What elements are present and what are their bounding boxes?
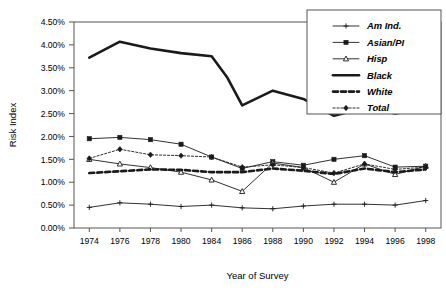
chart-container: 0.00%0.50%1.00%1.50%2.00%2.50%3.00%3.50%… [0, 0, 446, 292]
y-axis-tick-label: 2.50% [41, 109, 66, 119]
x-axis-title: Year of Survey [227, 270, 289, 281]
data-point-marker [179, 142, 183, 146]
y-axis-tick-label: 1.50% [41, 155, 66, 165]
data-point-marker [148, 152, 153, 157]
x-axis-tick-label: 1984 [202, 236, 221, 246]
data-point-marker [87, 137, 91, 141]
y-axis-tick-label: 4.00% [41, 40, 66, 50]
data-point-marker [344, 40, 348, 44]
y-axis-tick-label: 0.50% [41, 200, 66, 210]
x-axis-tick-label: 1976 [110, 236, 129, 246]
y-axis-tick-label: 4.50% [41, 17, 66, 27]
x-axis-tick-label: 1974 [80, 236, 99, 246]
data-point-marker [178, 204, 183, 209]
x-axis-tick-label: 1990 [294, 236, 313, 246]
data-point-marker [240, 205, 245, 210]
y-axis-tick-label: 3.50% [41, 63, 66, 73]
x-axis-tick-label: 1994 [355, 236, 374, 246]
data-point-marker [117, 147, 122, 152]
data-point-marker [179, 153, 184, 158]
x-axis-tick-label: 1986 [233, 236, 252, 246]
series-asian-pi [87, 135, 428, 170]
data-point-marker [423, 198, 428, 203]
y-axis-tick-label: 0.00% [41, 223, 66, 233]
legend-label: Hisp [367, 53, 388, 64]
data-point-marker [301, 203, 306, 208]
data-point-marker [87, 205, 92, 210]
line-chart: 0.00%0.50%1.00%1.50%2.00%2.50%3.00%3.50%… [0, 0, 446, 292]
data-point-marker [270, 206, 275, 211]
series-am-ind [87, 198, 429, 211]
series-line [89, 168, 425, 173]
y-axis-tick-label: 3.00% [41, 86, 66, 96]
series-white [89, 168, 425, 173]
x-axis-tick-label: 1980 [171, 236, 190, 246]
series-hisp [87, 157, 429, 194]
data-point-marker [331, 202, 336, 207]
data-point-marker [148, 202, 153, 207]
x-axis-tick-label: 1988 [263, 236, 282, 246]
x-axis-tick-label: 1978 [141, 236, 160, 246]
series-line [89, 159, 425, 191]
legend-label: White [367, 86, 393, 97]
x-axis-tick-label: 1996 [386, 236, 405, 246]
data-point-marker [331, 179, 336, 184]
y-axis-title: Risk Index [7, 103, 18, 148]
legend-label: Black [367, 70, 393, 81]
legend-label: Asian/PI [366, 37, 404, 48]
data-point-marker [362, 202, 367, 207]
data-point-marker [117, 200, 122, 205]
data-point-marker [118, 135, 122, 139]
y-axis-tick-label: 1.00% [41, 177, 66, 187]
x-axis-tick-label: 1992 [324, 236, 343, 246]
data-point-marker [332, 157, 336, 161]
y-axis-tick-label: 2.00% [41, 132, 66, 142]
legend: Am Ind.Asian/PIHispBlackWhiteTotal [307, 10, 441, 114]
series-line [89, 201, 425, 209]
legend-label: Am Ind. [366, 20, 401, 31]
x-axis-tick-label: 1998 [416, 236, 435, 246]
data-point-marker [209, 203, 214, 208]
data-point-marker [362, 154, 366, 158]
data-point-marker [148, 138, 152, 142]
data-point-marker [393, 203, 398, 208]
legend-label: Total [367, 102, 389, 113]
